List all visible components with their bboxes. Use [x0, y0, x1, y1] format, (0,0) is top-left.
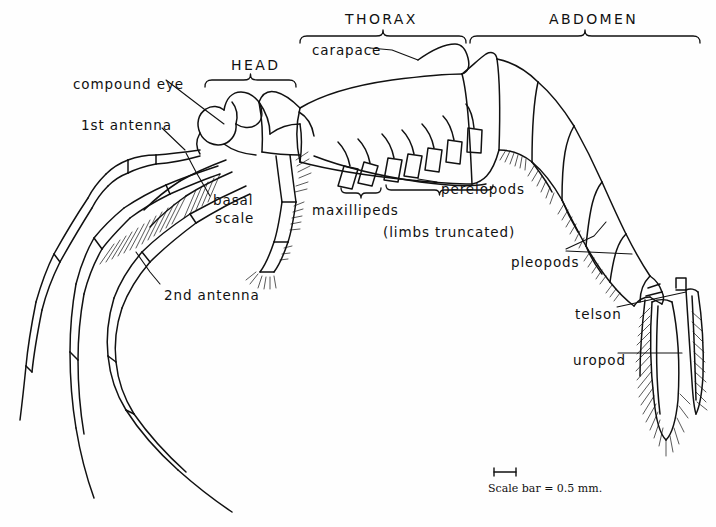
label-carapace: carapace — [312, 42, 381, 58]
pereiopods-shape — [382, 104, 482, 182]
region-label-thorax: THORAX — [345, 11, 418, 27]
label-maxillipeds: maxillipeds — [312, 202, 399, 218]
tail-fan-setae — [636, 308, 707, 456]
label-pleopods: pleopods — [511, 254, 580, 270]
region-label-abdomen: ABDOMEN — [549, 11, 638, 27]
label-second-antenna: 2nd antenna — [164, 287, 260, 303]
scale-bar-caption: Scale bar = 0.5 mm. — [488, 482, 602, 495]
label-compound-eye: compound eye — [73, 76, 184, 92]
label-limbs-truncated: (limbs truncated) — [383, 224, 515, 240]
head-shape — [197, 91, 302, 162]
label-basal-scale-1: basal — [213, 192, 253, 208]
pleopod-setae — [500, 150, 620, 301]
first-antenna-shape — [20, 150, 200, 420]
label-first-antenna: 1st antenna — [81, 117, 172, 133]
label-pereiopods: pereiopods — [441, 181, 525, 197]
label-telson: telson — [575, 306, 622, 322]
carapace-shape — [297, 44, 500, 184]
scale-bar-mark — [494, 468, 516, 476]
region-label-head: HEAD — [231, 57, 280, 73]
figure-canvas: HEAD THORAX ABDOMEN compound eye 1st ant… — [0, 0, 716, 527]
mouthpart-limb-shape — [260, 155, 296, 272]
label-uropod: uropod — [573, 352, 626, 368]
label-basal-scale-2: scale — [215, 210, 254, 226]
maxillipeds-shape — [338, 139, 378, 189]
